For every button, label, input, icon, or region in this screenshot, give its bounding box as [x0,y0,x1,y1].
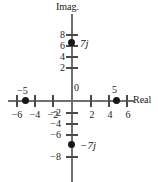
ytick-mark-minus-4 [66,123,78,125]
complex-plane-chart: Imag. Real 8 6 4 2 −2 −4 −6 −8 −6 −4 −2 … [0,0,158,182]
ytick-label-8: 8 [49,30,65,40]
point-label-minus-5: −5 [17,85,28,96]
point-label-minus-7j: −7j [80,140,96,151]
xtick-label-4: 4 [101,110,119,120]
ytick-label-2: 2 [49,63,65,73]
xtick-label-minus-4: −4 [26,110,44,120]
ytick-label-6: 6 [49,41,65,51]
xtick-label-6: 6 [119,110,137,120]
xtick-mark-minus-2 [52,95,54,107]
ytick-label-minus-6: −6 [45,130,61,140]
xtick-mark-minus-4 [34,95,36,107]
ytick-mark-4 [66,56,78,58]
xtick-mark-2 [90,95,92,107]
data-point-5 [113,97,120,104]
xtick-label-2: 2 [83,110,101,120]
ytick-label-minus-8: −8 [45,152,61,162]
data-point-minus-5 [22,97,29,104]
ytick-label-minus-4: −4 [45,119,61,129]
ytick-label-4: 4 [49,52,65,62]
ytick-mark-minus-6 [66,134,78,136]
xtick-mark-4 [108,95,110,107]
point-label-5: 5 [112,84,117,95]
xtick-label-minus-2: −2 [44,110,62,120]
origin-label: 0 [74,83,79,93]
ytick-mark-2 [66,67,78,69]
ytick-mark-minus-2 [66,112,78,114]
point-label-7j: 7j [80,38,89,49]
data-point-7j [68,39,75,46]
real-axis-title: Real [133,95,151,105]
data-point-minus-7j [68,141,75,148]
ytick-mark-8 [66,34,78,36]
xtick-mark-minus-6 [16,95,18,107]
imaginary-axis-title: Imag. [56,2,79,12]
ytick-mark-minus-8 [66,156,78,158]
xtick-mark-6 [126,95,128,107]
xtick-label-minus-6: −6 [8,110,26,120]
